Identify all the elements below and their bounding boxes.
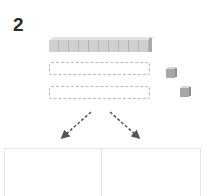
answer-box-left[interactable] <box>4 148 102 196</box>
answer-box-right[interactable] <box>101 148 201 196</box>
arrow-right-icon <box>110 112 137 136</box>
arrow-left-icon <box>64 112 91 136</box>
